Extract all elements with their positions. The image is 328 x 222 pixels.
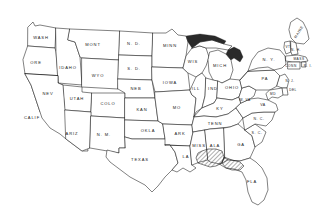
gulf-coast-hatched-region[interactable] xyxy=(196,149,224,167)
state-label-nev: NEV xyxy=(42,91,53,96)
state-label-wash: WASH xyxy=(33,35,49,40)
state-label-kan: KAN xyxy=(136,107,147,112)
state-label-utah: UTAH xyxy=(70,96,84,101)
state-label-wis: WIS xyxy=(188,59,198,64)
state-label-ri: R. I. xyxy=(304,64,312,68)
state-label-iowa: IOWA xyxy=(163,80,177,85)
state-label-ala: ALA xyxy=(210,143,220,148)
state-label-ga: GA xyxy=(237,142,245,147)
state-label-idaho: IDAHO xyxy=(59,65,76,70)
state-label-nm: N. M. xyxy=(97,132,111,137)
state-label-ill: ILL xyxy=(192,86,200,91)
state-label-pa: PA xyxy=(262,76,269,81)
state-label-nd: N. D. xyxy=(127,41,141,46)
state-label-ore: ORE xyxy=(30,60,42,65)
state-label-ky: KY xyxy=(216,106,223,111)
state-label-ariz: ARIZ xyxy=(66,131,79,136)
state-label-wva: W. VA xyxy=(239,98,250,102)
state-label-md: MD xyxy=(270,92,276,96)
state-label-va: VA xyxy=(260,103,266,107)
state-label-texas: TEXAS xyxy=(131,157,149,162)
state-label-la: LA xyxy=(183,154,190,159)
state-label-mont: MONT xyxy=(85,42,101,47)
state-label-ind: IND xyxy=(208,86,218,91)
state-label-del: DEL xyxy=(289,88,297,92)
state-shape-minn[interactable] xyxy=(152,29,188,68)
state-label-nc: N. C. xyxy=(253,117,264,121)
state-label-conn: CONN xyxy=(285,64,297,68)
state-label-mich: MICH xyxy=(213,63,227,68)
state-label-mo: MO xyxy=(173,105,181,110)
state-label-sd: S. D. xyxy=(127,66,141,71)
state-label-calif: CALIF xyxy=(24,115,40,120)
state-label-minn: MINN xyxy=(163,43,177,48)
state-label-vt: VT xyxy=(285,45,290,49)
state-label-mass: MASS xyxy=(293,57,304,61)
state-label-nj: N. J. xyxy=(285,79,294,83)
state-label-ny: N. Y. xyxy=(263,57,276,62)
state-label-wyo: WYO xyxy=(92,73,104,78)
state-label-tenn: TENN xyxy=(208,121,223,126)
state-label-ohio: OHIO xyxy=(225,85,239,90)
state-label-neb: NEB xyxy=(130,86,141,91)
state-label-colo: COLO xyxy=(100,101,115,106)
us-map-container: WASH ORE IDAHO MONT WYO NEV UTAH COLO CA… xyxy=(0,0,328,222)
state-label-ark: ARK xyxy=(174,131,185,136)
state-label-sc: S. C. xyxy=(252,131,263,135)
state-label-miss: MISS xyxy=(192,143,206,148)
us-states-map: WASH ORE IDAHO MONT WYO NEV UTAH COLO CA… xyxy=(0,0,328,222)
state-label-nh: N. H. xyxy=(291,48,301,52)
state-label-fla: FLA xyxy=(247,179,257,184)
state-label-okla: OKLA xyxy=(141,128,156,133)
